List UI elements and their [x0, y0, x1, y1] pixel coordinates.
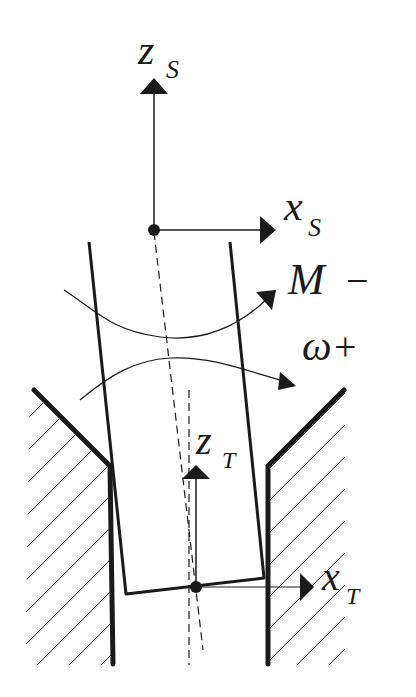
right-wall-edge: [268, 390, 344, 664]
omega-label: ω: [302, 323, 332, 369]
moment-arrowhead-icon: [256, 290, 276, 310]
xt-label: x: [321, 554, 340, 599]
omega-sign: +: [334, 324, 357, 369]
omega-arrowhead-icon: [278, 372, 296, 390]
xs-label: x: [283, 183, 303, 229]
moment-sign: −: [346, 258, 369, 303]
zs-arrowhead-icon: [140, 78, 168, 94]
s-origin-dot: [148, 224, 160, 236]
tool-outline: [89, 242, 264, 594]
xt-arrowhead-icon: [300, 573, 314, 601]
t-origin-dot: [190, 581, 202, 593]
omega-curve: [80, 358, 286, 400]
left-wall-edge: [34, 390, 113, 664]
xt-subscript: T: [346, 583, 361, 609]
xs-subscript: S: [308, 213, 321, 242]
zt-subscript: T: [222, 447, 237, 473]
left-wall-hatch: [26, 366, 112, 672]
right-wall-hatch: [268, 393, 345, 672]
xs-arrowhead-icon: [260, 216, 276, 244]
zt-arrowhead-icon: [182, 465, 210, 479]
zt-label: z: [195, 418, 212, 463]
zs-label: z: [137, 27, 154, 73]
diagram-canvas: z S x S M − ω + z T x T: [0, 0, 416, 697]
zs-subscript: S: [166, 55, 179, 84]
moment-label: M: [287, 255, 327, 304]
